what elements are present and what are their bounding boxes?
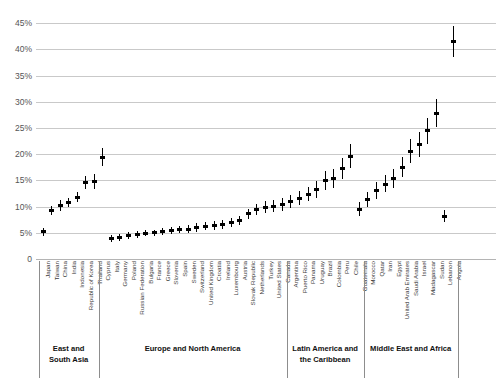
y-tick-label: 35% bbox=[15, 71, 32, 80]
point-marker bbox=[186, 228, 191, 231]
point-marker bbox=[288, 200, 293, 203]
group-label-line: South Asia bbox=[39, 355, 99, 366]
group-separator bbox=[458, 261, 459, 378]
point-marker bbox=[383, 183, 388, 186]
point-marker bbox=[374, 189, 379, 192]
y-tick-label: 20% bbox=[15, 150, 32, 159]
category-axis-labels: JapanTaiwanChinaIndiaIndonesiaRepublic o… bbox=[36, 261, 496, 341]
point-marker bbox=[434, 112, 439, 115]
category-label: Austria bbox=[242, 261, 248, 280]
gridline-5 bbox=[36, 233, 496, 234]
category-label: Argentina bbox=[293, 261, 299, 288]
category-label: Taiwan bbox=[54, 261, 60, 280]
group-labels: East andSouth AsiaEurope and North Ameri… bbox=[36, 344, 496, 378]
gridline-30 bbox=[36, 102, 496, 103]
point-marker bbox=[297, 197, 302, 200]
point-marker bbox=[143, 232, 148, 235]
y-tick-label: 30% bbox=[15, 98, 32, 107]
category-label: Panama bbox=[310, 261, 316, 284]
point-marker bbox=[66, 201, 71, 204]
point-marker bbox=[117, 236, 122, 239]
point-marker bbox=[75, 196, 80, 199]
category-label: Sudan bbox=[439, 261, 445, 279]
category-label: United Arab Emirates bbox=[404, 261, 410, 319]
category-label: Sweden bbox=[191, 261, 197, 283]
point-marker bbox=[220, 223, 225, 226]
point-marker bbox=[442, 215, 447, 218]
y-tick-label: 5% bbox=[20, 229, 32, 238]
category-label: Republic of Korea bbox=[88, 261, 94, 310]
point-marker bbox=[135, 233, 140, 236]
point-marker bbox=[49, 209, 54, 212]
group-label-line: Europe and North America bbox=[99, 344, 287, 355]
point-marker bbox=[348, 155, 353, 158]
category-label: Colombia bbox=[336, 261, 342, 287]
category-label: Spain bbox=[182, 261, 188, 277]
point-marker bbox=[109, 237, 114, 240]
group-separator bbox=[39, 261, 40, 378]
category-label: Puerto Rico bbox=[302, 261, 308, 293]
category-label: China bbox=[62, 261, 68, 277]
point-marker bbox=[92, 180, 97, 183]
category-label: Turkey bbox=[268, 261, 274, 280]
group-label-line: East and bbox=[39, 344, 99, 355]
category-label: India bbox=[71, 261, 77, 274]
category-label: Morocco bbox=[370, 261, 376, 285]
group-label: Middle East and Africa bbox=[364, 344, 458, 355]
gridline-35 bbox=[36, 76, 496, 77]
point-marker bbox=[271, 205, 276, 208]
point-marker bbox=[357, 208, 362, 211]
point-marker bbox=[126, 234, 131, 237]
y-axis-tick-labels: 05%10%15%20%25%30%35%40%45% bbox=[0, 0, 36, 267]
category-label: Luxembourg bbox=[233, 261, 239, 295]
category-label: Italy bbox=[114, 261, 120, 272]
category-label: Ireland bbox=[225, 261, 231, 280]
y-tick-label: 10% bbox=[15, 202, 32, 211]
category-label: Thailand bbox=[97, 261, 103, 285]
point-marker bbox=[246, 212, 251, 215]
gridline-40 bbox=[36, 49, 496, 50]
group-label: Latin America andthe Caribbean bbox=[287, 344, 364, 365]
point-marker bbox=[58, 204, 63, 207]
point-marker bbox=[83, 181, 88, 184]
group-label: Europe and North America bbox=[99, 344, 287, 355]
category-label: Iran bbox=[387, 261, 393, 272]
category-label: Guatemala bbox=[362, 261, 368, 291]
category-label: Israel bbox=[421, 261, 427, 276]
plot-area bbox=[36, 8, 496, 259]
y-tick-label: 25% bbox=[15, 124, 32, 133]
point-marker bbox=[323, 179, 328, 182]
category-label: Canada bbox=[285, 261, 291, 283]
point-marker bbox=[331, 177, 336, 180]
group-label: East andSouth Asia bbox=[39, 344, 99, 365]
category-label: Slovenia bbox=[173, 261, 179, 285]
category-label: Greece bbox=[165, 261, 171, 281]
y-tick-label: 15% bbox=[15, 176, 32, 185]
category-label: Slovak Republic bbox=[250, 261, 256, 305]
point-marker bbox=[280, 203, 285, 206]
chart-root: 05%10%15%20%25%30%35%40%45% JapanTaiwanC… bbox=[0, 0, 500, 383]
category-label: Brazil bbox=[327, 261, 333, 276]
point-marker bbox=[306, 193, 311, 196]
category-label: Poland bbox=[131, 261, 137, 280]
point-marker bbox=[254, 208, 259, 211]
category-label: Lebanon bbox=[447, 261, 453, 285]
point-marker bbox=[160, 230, 165, 233]
point-marker bbox=[408, 150, 413, 153]
point-marker bbox=[263, 206, 268, 209]
point-marker bbox=[451, 40, 456, 43]
category-label: Russian Federation bbox=[139, 261, 145, 315]
category-label: Angola bbox=[456, 261, 462, 280]
point-marker bbox=[169, 229, 174, 232]
group-separator bbox=[287, 261, 288, 378]
group-label-line: the Caribbean bbox=[287, 355, 364, 366]
point-marker bbox=[237, 219, 242, 222]
point-marker bbox=[177, 228, 182, 231]
category-label: Uruguay bbox=[319, 261, 325, 284]
gridline-45 bbox=[36, 23, 496, 24]
point-marker bbox=[203, 225, 208, 228]
point-marker bbox=[229, 221, 234, 224]
category-label: Qatar bbox=[379, 261, 385, 276]
category-label: Indonesia bbox=[79, 261, 85, 288]
group-separator bbox=[364, 261, 365, 378]
